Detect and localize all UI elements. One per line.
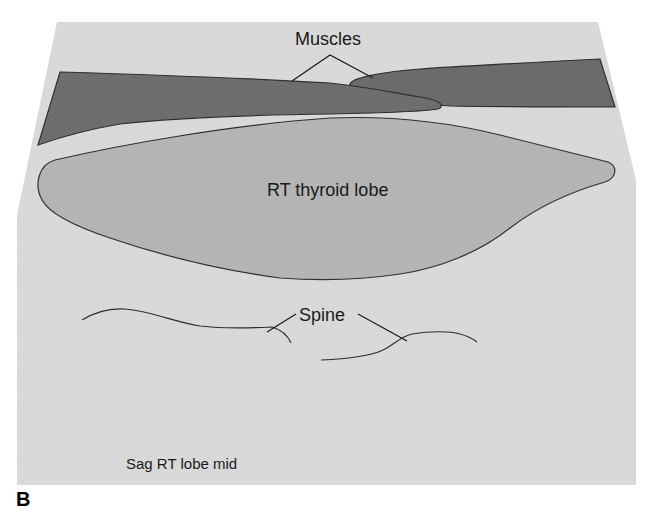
spine-label: Spine xyxy=(299,306,345,324)
view-label: Sag RT lobe mid xyxy=(126,456,237,471)
ultrasound-diagram: Muscles RT thyroid lobe Spine Sag RT lob… xyxy=(0,0,661,508)
thyroid-lobe-label: RT thyroid lobe xyxy=(267,181,388,199)
muscles-label: Muscles xyxy=(295,30,361,48)
panel-letter: B xyxy=(16,489,30,508)
diagram-canvas xyxy=(0,0,661,508)
